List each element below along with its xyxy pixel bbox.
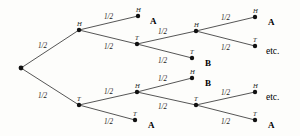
outcome-hh: A bbox=[150, 17, 157, 26]
node-letter-thh: H bbox=[190, 69, 195, 76]
tree-node-htt bbox=[190, 56, 194, 60]
tree-node-tt bbox=[133, 118, 137, 122]
outcome-ththh: etc. bbox=[266, 93, 279, 103]
edge-prob-ht-htt: 1/2 bbox=[158, 58, 167, 65]
node-letter-hth: H bbox=[194, 22, 199, 29]
edge-prob-ht-hth: 1/2 bbox=[158, 29, 167, 36]
node-letter-ththt: T bbox=[253, 111, 257, 118]
outcome-htt: B bbox=[205, 59, 211, 68]
edge-prob-root-h: 1/2 bbox=[38, 43, 47, 50]
tree-edge-ht-htt bbox=[137, 44, 192, 58]
tree-node-tht bbox=[194, 103, 198, 107]
probability-tree-diagram: HTHTHTHTHTHTHT1/21/21/21/21/21/21/21/21/… bbox=[0, 0, 300, 136]
edge-prob-tht-ththt: 1/2 bbox=[221, 119, 230, 126]
tree-node-hh bbox=[136, 14, 140, 18]
edge-prob-h-ht: 1/2 bbox=[104, 44, 113, 51]
node-letter-t: T bbox=[77, 96, 81, 103]
tree-edge-root-h bbox=[21, 30, 79, 68]
node-letter-ht: T bbox=[135, 35, 139, 42]
edge-group bbox=[21, 16, 255, 120]
tree-node-ht bbox=[135, 42, 139, 46]
tree-edge-h-ht bbox=[79, 30, 137, 44]
edge-prob-h-hh: 1/2 bbox=[104, 14, 113, 21]
tree-node-htht bbox=[253, 44, 257, 48]
node-letter-ththh: H bbox=[253, 83, 258, 90]
node-letter-hthh: H bbox=[253, 8, 258, 15]
tree-node-t bbox=[77, 103, 81, 107]
node-letter-htht: T bbox=[253, 37, 257, 44]
tree-node-hth bbox=[194, 29, 198, 33]
node-letter-tt: T bbox=[133, 111, 137, 118]
edge-prob-th-thh: 1/2 bbox=[158, 76, 167, 83]
tree-node-root bbox=[19, 66, 24, 71]
edge-prob-hth-htht: 1/2 bbox=[221, 45, 230, 52]
edge-prob-t-th: 1/2 bbox=[104, 89, 113, 96]
tree-node-hthh bbox=[253, 15, 257, 19]
outcome-hthh: A bbox=[268, 18, 275, 27]
edge-prob-root-t: 1/2 bbox=[38, 93, 47, 100]
outcome-ththt: A bbox=[268, 121, 275, 130]
edge-prob-hth-hthh: 1/2 bbox=[221, 15, 230, 22]
node-letter-tht: T bbox=[194, 96, 198, 103]
edge-prob-tht-ththh: 1/2 bbox=[221, 90, 230, 97]
edge-prob-t-tt: 1/2 bbox=[104, 119, 113, 126]
outcome-htht: etc. bbox=[266, 47, 279, 57]
node-letter-hh: H bbox=[136, 7, 141, 14]
outcome-tt: A bbox=[148, 121, 155, 130]
tree-node-th bbox=[135, 90, 139, 94]
node-letter-h: H bbox=[77, 21, 82, 28]
tree-node-thh bbox=[190, 76, 194, 80]
node-letter-th: H bbox=[135, 83, 140, 90]
tree-edge-root-t bbox=[21, 68, 79, 105]
node-group bbox=[19, 14, 258, 122]
outcome-thh: B bbox=[205, 79, 211, 88]
tree-node-ththh bbox=[253, 90, 257, 94]
tree-node-h bbox=[77, 28, 81, 32]
tree-node-ththt bbox=[253, 118, 257, 122]
node-letter-htt: T bbox=[190, 49, 194, 56]
edge-prob-th-tht: 1/2 bbox=[158, 104, 167, 111]
